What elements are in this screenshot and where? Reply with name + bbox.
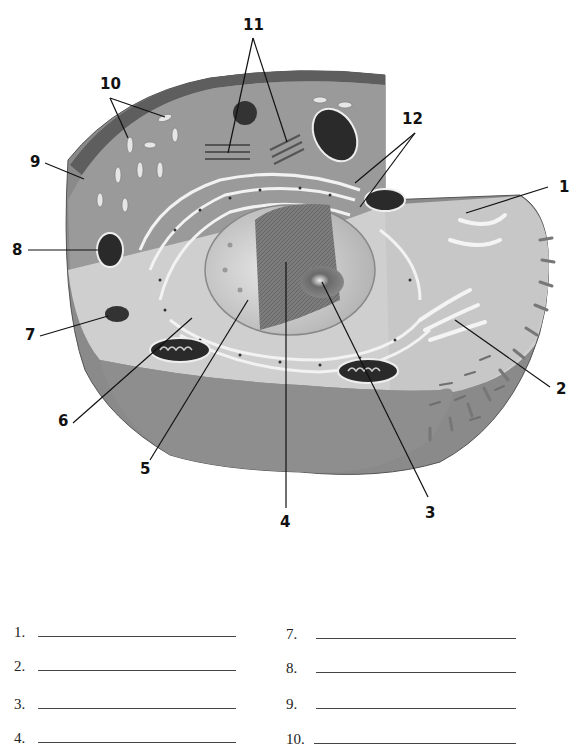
answer-number: 4. [14,730,38,745]
callout-5: 5 [140,462,150,477]
callout-4: 4 [280,515,290,530]
answer-row-2[interactable]: 2. [14,658,236,675]
answer-key: 1. 2. 3. 4. 7. 8. 9. 10. [0,600,582,745]
callout-3: 3 [425,506,435,521]
callout-12: 12 [402,112,423,127]
answer-blank[interactable] [316,707,516,709]
callout-1: 1 [559,180,569,195]
answer-row-9[interactable]: 9. [286,696,516,713]
answer-number: 8. [286,660,316,677]
callout-10: 10 [100,77,121,92]
answer-blank[interactable] [316,637,516,639]
vesicle [105,306,129,322]
answer-row-10[interactable]: 10. [286,731,516,745]
answer-row-3[interactable]: 3. [14,696,236,713]
cell-diagram [0,0,582,560]
answer-blank[interactable] [38,707,236,709]
nucleus [205,204,375,335]
answer-blank[interactable] [38,669,236,671]
callout-8: 8 [12,243,22,258]
answer-number: 1. [14,624,38,641]
answer-number: 2. [14,658,38,675]
callout-7: 7 [25,328,35,343]
callout-11: 11 [243,18,264,33]
answer-blank[interactable] [38,635,236,637]
answer-blank[interactable] [314,742,516,744]
answer-number: 9. [286,696,316,713]
answer-blank[interactable] [38,741,236,743]
answer-row-7[interactable]: 7. [286,626,516,643]
callout-2: 2 [556,382,566,397]
answer-number: 3. [14,696,38,713]
callout-6: 6 [58,414,68,429]
answer-row-8[interactable]: 8. [286,660,516,677]
callout-9: 9 [30,155,40,170]
answer-number: 7. [286,626,316,643]
answer-number: 10. [286,731,314,745]
answer-blank[interactable] [316,671,516,673]
answer-row-1[interactable]: 1. [14,624,236,641]
answer-row-4[interactable]: 4. [14,730,236,745]
